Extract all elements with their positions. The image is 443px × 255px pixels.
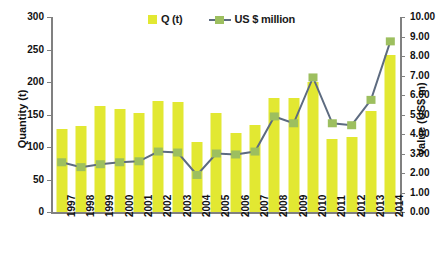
value-marker [115, 158, 124, 166]
x-tick-label: 2009 [298, 195, 309, 217]
x-tick-label: 2010 [317, 195, 328, 217]
y-tick-label-left: 150 [0, 110, 44, 120]
value-marker [173, 149, 182, 157]
y-tick-label-left: 250 [0, 45, 44, 55]
y-tick-right [400, 115, 405, 116]
y-tick-label-right: 2.00 [410, 168, 443, 178]
y-tick-right [400, 193, 405, 194]
x-tick-label: 2014 [394, 195, 405, 217]
y-tick-label-right: 4.00 [410, 129, 443, 139]
y-tick-label-left: 300 [0, 12, 44, 22]
x-tick-label: 2011 [336, 195, 347, 217]
y-tick-label-right: 9.00 [410, 32, 443, 42]
x-tick-label: 2008 [278, 195, 289, 217]
y-tick-right [400, 154, 405, 155]
y-tick-label-right: 7.00 [410, 71, 443, 81]
y-tick-label-left: 200 [0, 77, 44, 87]
x-tick-label: 1998 [85, 195, 96, 217]
value-marker [154, 148, 163, 156]
value-marker [270, 112, 279, 120]
y-tick-left [47, 212, 52, 213]
value-marker [193, 171, 202, 179]
y-tick-label-right: 1.00 [410, 188, 443, 198]
y-tick-label-right: 10.00 [410, 12, 443, 22]
value-marker [231, 150, 240, 158]
value-marker [96, 160, 105, 168]
line-series-value [52, 17, 400, 212]
x-tick-label: 2007 [259, 195, 270, 217]
x-tick-label: 1999 [104, 195, 115, 217]
plot-area: 050100150200250300 0.001.002.003.004.005… [52, 17, 400, 212]
x-tick-label: 2000 [124, 195, 135, 217]
y-tick-label-right: 3.00 [410, 149, 443, 159]
x-tick-label: 2005 [220, 195, 231, 217]
chart-container: Q (t) US $ million Quantity (t) Value (U… [0, 0, 443, 255]
y-tick-label-right: 6.00 [410, 90, 443, 100]
y-tick-right [400, 76, 405, 77]
x-tick-label: 2001 [143, 195, 154, 217]
value-marker [367, 96, 376, 104]
value-marker [386, 37, 395, 45]
x-tick-label: 2004 [201, 195, 212, 217]
x-tick-label: 2013 [375, 195, 386, 217]
y-tick-right [400, 56, 405, 57]
value-marker [135, 157, 144, 165]
y-tick-right [400, 95, 405, 96]
y-tick-label-left: 0 [0, 207, 44, 217]
x-tick-label: 2006 [240, 195, 251, 217]
y-tick-right [400, 17, 405, 18]
value-marker [328, 119, 337, 127]
y-tick-label-right: 8.00 [410, 51, 443, 61]
y-tick-right [400, 134, 405, 135]
x-tick-label: 2002 [162, 195, 173, 217]
value-marker [289, 119, 298, 127]
x-tick-label: 1997 [66, 195, 77, 217]
y-tick-right [400, 37, 405, 38]
value-marker [251, 148, 260, 156]
value-marker [77, 163, 86, 171]
x-tick-label: 2012 [356, 195, 367, 217]
value-line-path [62, 41, 391, 175]
y-tick-label-right: 0.00 [410, 207, 443, 217]
y-tick-label-left: 50 [0, 175, 44, 185]
value-marker [347, 121, 356, 129]
y-tick-label-left: 100 [0, 142, 44, 152]
y-tick-right [400, 173, 405, 174]
value-marker [57, 158, 66, 166]
y-tick-label-right: 5.00 [410, 110, 443, 120]
value-marker [309, 73, 318, 81]
x-tick-label: 2003 [182, 195, 193, 217]
value-marker [212, 150, 221, 158]
